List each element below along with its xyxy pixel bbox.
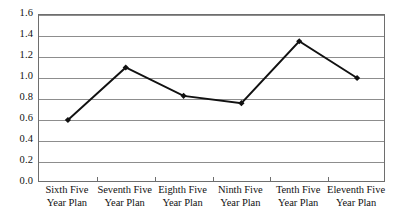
line-chart: 0.00.20.40.60.81.01.21.41.6 Sixth FiveYe… [0,0,397,223]
data-point-marker [180,93,186,99]
y-axis-tick-label: 1.6 [0,8,33,18]
y-axis-tick-label: 1.2 [0,50,33,60]
plot-area [38,14,385,182]
x-axis-category-line-2: Year Plan [327,197,385,210]
x-axis-category-label: Sixth FiveYear Plan [38,184,96,223]
x-axis-category-line-1: Tenth Five [269,184,327,197]
x-axis-category-line-2: Year Plan [96,197,154,210]
series-line [68,41,357,120]
data-series [39,15,386,183]
y-axis-tick-label: 0.6 [0,113,33,123]
x-axis-category-line-1: Eighth Five [154,184,212,197]
x-axis-category-line-1: Sixth Five [38,184,96,197]
x-axis-category-line-1: Ninth Five [211,184,269,197]
y-axis-tick-label: 0.2 [0,155,33,165]
x-axis-category-label: Seventh FiveYear Plan [96,184,154,223]
y-axis-tick-label: 0.4 [0,134,33,144]
x-axis-category-line-1: Seventh Five [96,184,154,197]
x-axis-category-line-2: Year Plan [38,197,96,210]
y-axis-tick-label: 0.0 [0,176,33,186]
x-axis-labels: Sixth FiveYear PlanSeventh FiveYear Plan… [38,184,385,223]
x-axis-category-label: Eighth FiveYear Plan [154,184,212,223]
x-axis-category-line-1: Eleventh Five [327,184,385,197]
y-axis-tick-label: 0.8 [0,92,33,102]
y-axis-tick-label: 1.0 [0,71,33,81]
x-axis-category-label: Ninth FiveYear Plan [211,184,269,223]
x-axis-category-line-2: Year Plan [154,197,212,210]
x-axis-category-label: Eleventh FiveYear Plan [327,184,385,223]
x-axis-category-line-2: Year Plan [269,197,327,210]
y-axis-tick-label: 1.4 [0,29,33,39]
x-axis-category-label: Tenth FiveYear Plan [269,184,327,223]
x-axis-category-line-2: Year Plan [211,197,269,210]
